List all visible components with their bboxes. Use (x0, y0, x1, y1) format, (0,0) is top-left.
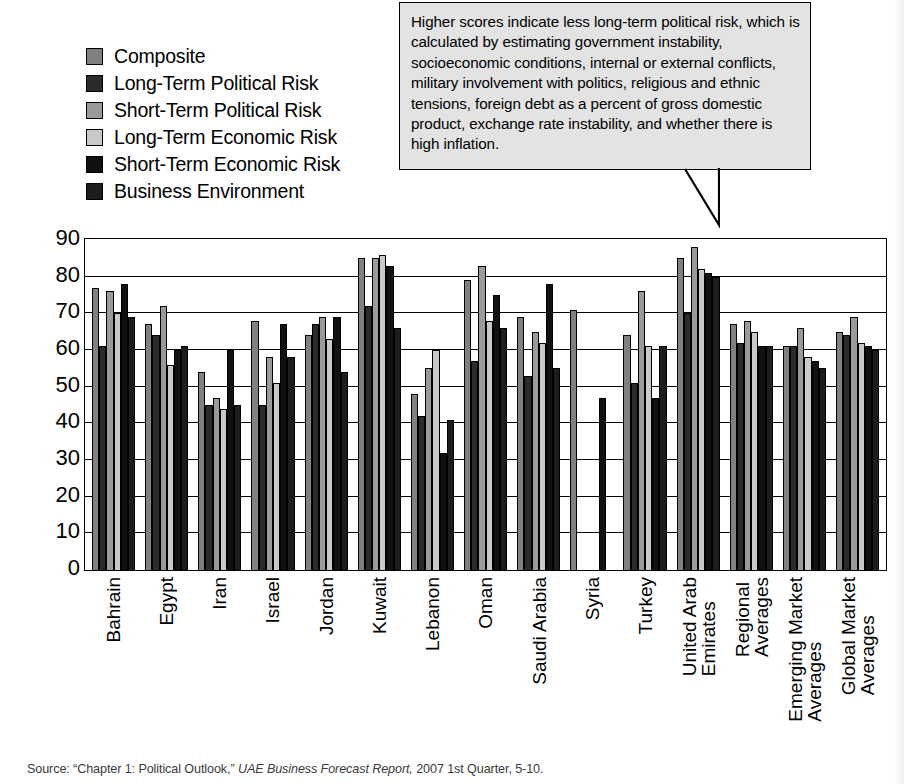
x-axis-label-line: Bahrain (102, 577, 123, 643)
x-axis-label: Turkey (636, 577, 655, 634)
x-label-cell: Emerging MarketAverages (778, 573, 831, 753)
bar (500, 328, 507, 570)
bar (341, 372, 348, 570)
y-tick-label: 90 (26, 227, 80, 249)
x-axis-label-line: Regional (732, 582, 753, 657)
bar (114, 313, 121, 570)
bar (850, 317, 857, 570)
bar (280, 324, 287, 570)
legend-label: Composite (114, 47, 205, 67)
bar (440, 453, 447, 570)
bar (213, 398, 220, 570)
bar (447, 420, 454, 570)
x-label-cell: Saudi Arabia (512, 573, 565, 753)
x-axis-label: Iran (210, 577, 229, 610)
bar (517, 317, 524, 570)
bar (677, 258, 684, 570)
bar-group (618, 239, 671, 570)
x-axis-label: Syria (583, 577, 602, 620)
legend-item-composite: Composite (86, 44, 340, 69)
bar (121, 284, 128, 570)
bar (691, 247, 698, 570)
x-axis-label: Israel (263, 577, 282, 623)
bar (181, 346, 188, 570)
y-tick-label: 10 (26, 520, 80, 542)
y-tick-label: 60 (26, 337, 80, 359)
x-axis-label-line: Lebanon (422, 577, 443, 651)
legend-label: Short-Term Political Risk (114, 101, 321, 121)
bar (486, 321, 493, 570)
bar-group (87, 239, 140, 570)
bar-group (459, 239, 512, 570)
bar-groups (85, 239, 886, 570)
x-axis-label-line: Saudi Arabia (528, 577, 549, 685)
x-label-cell: Egypt (139, 573, 192, 753)
y-tick-label: 40 (26, 410, 80, 432)
bar (379, 255, 386, 570)
bar-group (831, 239, 884, 570)
legend-label: Short-Term Economic Risk (114, 155, 340, 175)
bar (730, 324, 737, 570)
legend-item-business-environment: Business Environment (86, 179, 340, 204)
x-axis-label: Jordan (316, 577, 335, 635)
x-axis-labels: BahrainEgyptIranIsraelJordanKuwaitLebano… (84, 573, 887, 753)
bar (333, 317, 340, 570)
bar (471, 361, 478, 570)
bar (365, 306, 372, 570)
bar-group (300, 239, 353, 570)
x-axis-label-line: Jordan (315, 577, 336, 635)
callout-box: Higher scores indicate less long-term po… (399, 2, 811, 170)
bar (638, 291, 645, 570)
x-axis-label-line: Turkey (635, 577, 656, 634)
x-label-cell: Iran (193, 573, 246, 753)
bar (812, 361, 819, 570)
x-axis-label: Saudi Arabia (529, 577, 548, 685)
x-axis-label-line: Emerging Market (785, 577, 806, 722)
bar (152, 335, 159, 570)
bar-group (353, 239, 406, 570)
bar (744, 321, 751, 570)
bar-group (193, 239, 246, 570)
bar (783, 346, 790, 570)
source-note: Source: “Chapter 1: Political Outlook,” … (27, 762, 543, 776)
bar (259, 405, 266, 570)
bar (305, 335, 312, 570)
bar (790, 346, 797, 570)
bar (251, 321, 258, 570)
bar (539, 343, 546, 570)
bar (570, 310, 577, 570)
source-prefix: Source: “Chapter 1: Political Outlook,” (27, 762, 238, 776)
bar (631, 383, 638, 570)
bar (553, 368, 560, 570)
bar-group (778, 239, 831, 570)
x-axis-label-line: Egypt (155, 577, 176, 626)
x-axis-label: Global MarketAverages (839, 577, 877, 695)
chart-legend: CompositeLong-Term Political RiskShort-T… (86, 44, 340, 204)
bar (312, 324, 319, 570)
x-axis-label-line: United Arab (679, 577, 700, 676)
x-axis-label: Oman (476, 577, 495, 629)
legend-label: Long-Term Economic Risk (114, 128, 337, 148)
x-axis-label-line: Emirates (699, 577, 718, 676)
bar (266, 357, 273, 570)
bar (273, 383, 280, 570)
legend-item-short-term-economic-risk: Short-Term Economic Risk (86, 152, 340, 177)
x-axis-label-line: Israel (262, 577, 283, 623)
bar (432, 350, 439, 570)
bar (599, 398, 606, 570)
bar (493, 295, 500, 570)
x-label-cell: Bahrain (86, 573, 139, 753)
x-axis-label-line: Kuwait (368, 577, 389, 634)
bar (645, 346, 652, 570)
source-title: UAE Business Forecast Report, (238, 762, 413, 776)
bar (758, 346, 765, 570)
x-axis-label-line: Oman (475, 577, 496, 629)
bar (372, 258, 379, 570)
bar-group (565, 239, 618, 570)
figure-root: CompositeLong-Term Political RiskShort-T… (0, 0, 904, 784)
bar (819, 368, 826, 570)
x-label-cell: Jordan (299, 573, 352, 753)
y-tick-label: 30 (26, 447, 80, 469)
bar (425, 368, 432, 570)
legend-swatch-icon (86, 75, 103, 92)
